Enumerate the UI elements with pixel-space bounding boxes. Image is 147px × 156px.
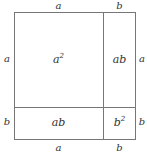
edge-label-right-a: a [137, 54, 147, 64]
cell-base-b-squared: b [114, 116, 121, 129]
edge-label-top-b: b [103, 1, 136, 11]
cell-exponent-b-squared: 2 [121, 115, 125, 123]
cell-label-ab-bottom: ab [14, 117, 103, 128]
cell-label-a-squared: a2 [14, 54, 103, 65]
edge-label-left-b: b [1, 117, 13, 127]
edge-label-left-a: a [1, 54, 13, 64]
cell-base-ab-right: ab [113, 53, 127, 66]
edge-label-right-b: b [137, 117, 147, 127]
horizontal-divider [14, 107, 136, 108]
cell-base-ab-bottom: ab [52, 116, 66, 129]
cell-exponent-a-squared: 2 [60, 52, 64, 60]
edge-label-bottom-b: b [103, 143, 136, 153]
edge-label-top-a: a [14, 1, 103, 11]
cell-label-b-squared: b2 [103, 117, 136, 128]
cell-label-ab-right: ab [103, 54, 136, 65]
binomial-square-diagram: a b a b a b a b a2 ab ab b2 [0, 0, 147, 156]
edge-label-bottom-a: a [14, 143, 103, 153]
